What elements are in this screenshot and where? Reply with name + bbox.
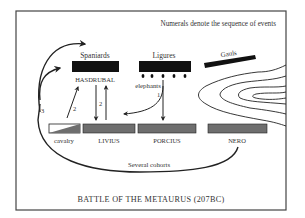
step-1-label: 1 [157,91,160,98]
step-2-livius-label: 2 [99,100,102,107]
step-2-cavalry-label: 2 [73,105,76,112]
battle-diagram: Numerals denote the sequence of events S… [0,0,305,218]
nero-label: NERO [228,137,246,144]
porcius-label: PORCIUS [153,137,181,144]
hasdrubal-label: HASDRUBAL [75,76,115,83]
livius-label: LIVIUS [98,137,120,144]
nero-unit [208,124,267,133]
cavalry-unit [49,124,80,133]
porcius-unit [138,124,196,133]
ligures-label: Ligures [153,51,176,60]
spaniards-unit [72,61,119,72]
elephants-label: elephants [135,82,161,89]
spaniards-label: Spaniards [80,51,110,60]
cavalry-label: cavalry [54,137,75,144]
livius-unit [83,124,135,133]
diagram-title: BATTLE OF THE METAURUS (207BC) [78,195,225,204]
ligures-unit [139,61,191,72]
cohorts-label: Several cohorts [128,161,170,168]
diagram-frame [16,11,286,210]
sequence-note: Numerals denote the sequence of events [160,20,276,28]
step-3-label: 3 [41,107,44,114]
